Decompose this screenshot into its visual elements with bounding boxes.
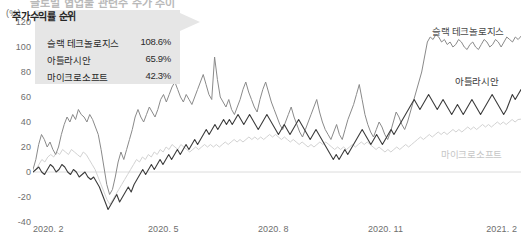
x-axis-tick: 2020. 11 bbox=[368, 224, 403, 234]
cropped-headline-text: 글로벌 협업툴 관련주 주가 추이 bbox=[30, 0, 176, 8]
cropped-headline: 글로벌 협업툴 관련주 주가 추이 bbox=[0, 0, 523, 8]
y-axis-tick: -20 bbox=[3, 192, 31, 202]
legend-row: 슬랙 테크놀로지스108.6% bbox=[47, 36, 171, 51]
y-axis-labels: 120100806040200-20-40 bbox=[0, 0, 31, 247]
y-axis-tick: 0 bbox=[3, 167, 31, 177]
x-axis-tick: 2020. 5 bbox=[148, 224, 179, 234]
legend-row-name: 슬랙 테크놀로지스 bbox=[47, 36, 119, 50]
y-axis-tick: 80 bbox=[3, 67, 31, 77]
x-axis-tick: 2021. 2 bbox=[486, 224, 517, 234]
legend-row-value: 65.9% bbox=[146, 53, 171, 64]
y-axis-tick: 60 bbox=[3, 92, 31, 102]
series-label-slack: 슬랙 테크놀로지스 bbox=[432, 24, 504, 38]
legend-callout-tail bbox=[180, 13, 200, 31]
legend-row-name: 마이크로소프트 bbox=[47, 70, 108, 84]
legend-row-name: 아틀라시안 bbox=[47, 53, 91, 67]
series-label-microsoft: 마이크로소프트 bbox=[441, 147, 502, 161]
stock-performance-chart: 글로벌 협업툴 관련주 주가 추이 (%) 120100806040200-20… bbox=[0, 0, 523, 247]
legend-row-value: 42.3% bbox=[146, 70, 171, 81]
series-label-atlassian: 아틀라시안 bbox=[455, 74, 499, 88]
y-axis-tick: 100 bbox=[3, 42, 31, 52]
x-axis-labels: 2020. 22020. 52020. 82020. 112021. 2 bbox=[0, 224, 523, 244]
x-axis-tick: 2020. 8 bbox=[258, 224, 289, 234]
legend-title: 주가수익률 순위 bbox=[12, 8, 76, 23]
legend-row: 마이크로소프트42.3% bbox=[47, 70, 171, 85]
y-axis-tick: 20 bbox=[3, 142, 31, 152]
legend-row-value: 108.6% bbox=[141, 36, 171, 47]
y-axis-tick: 40 bbox=[3, 117, 31, 127]
x-axis-tick: 2020. 2 bbox=[33, 224, 64, 234]
legend-row: 아틀라시안65.9% bbox=[47, 53, 171, 68]
